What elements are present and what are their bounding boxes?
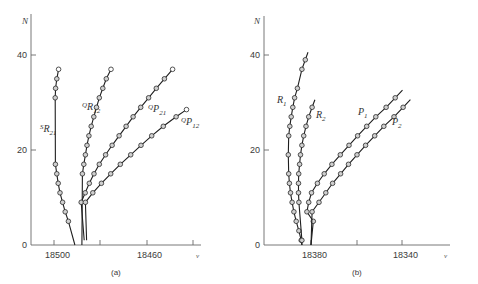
data-point xyxy=(393,96,398,101)
data-point xyxy=(347,143,352,148)
series-label-sr21: SR21 xyxy=(40,123,57,137)
data-point xyxy=(53,96,58,101)
data-point xyxy=(66,219,71,224)
data-point xyxy=(324,191,329,196)
data-point xyxy=(87,181,92,186)
data-point xyxy=(97,162,102,167)
series-label-r2: R2 xyxy=(315,109,326,123)
data-point xyxy=(338,153,343,158)
spectral-branch-figure: N 40 20 0 18500 18460 ν (a) SR21QR12QP21… xyxy=(0,0,478,284)
data-point xyxy=(384,105,389,110)
branch-curve xyxy=(55,69,75,245)
data-point xyxy=(154,86,159,91)
data-point xyxy=(296,191,301,196)
data-point xyxy=(330,181,335,186)
series-label-qp12: QP12 xyxy=(181,116,200,130)
data-point xyxy=(63,210,68,215)
data-point xyxy=(338,172,343,177)
y-tick-label-0-b: 0 xyxy=(255,240,260,250)
data-point xyxy=(286,172,291,177)
data-point xyxy=(306,200,311,205)
data-point xyxy=(295,86,300,91)
x-tick-label-18460: 18460 xyxy=(137,250,162,260)
series-qp12: QP12 xyxy=(83,107,200,240)
data-point xyxy=(304,124,309,129)
series-r2: R2 xyxy=(296,100,326,245)
x-tick-label-18500: 18500 xyxy=(45,250,70,260)
data-point xyxy=(305,210,310,215)
data-point xyxy=(131,115,136,120)
data-point xyxy=(149,134,154,139)
series-label-qp21: QP21 xyxy=(148,103,166,117)
series-qr12: QR12 xyxy=(80,67,113,245)
data-point xyxy=(60,200,65,205)
data-point xyxy=(309,191,314,196)
data-point xyxy=(300,238,305,243)
data-point xyxy=(103,153,108,158)
data-point xyxy=(124,124,129,129)
open-data-point xyxy=(184,107,189,112)
data-point xyxy=(56,181,61,186)
x-axis-label-b: ν xyxy=(444,252,448,260)
data-point xyxy=(83,200,88,205)
data-point xyxy=(294,219,299,224)
data-point xyxy=(303,58,308,63)
series-sr21: SR21 xyxy=(40,67,75,245)
data-point xyxy=(317,200,322,205)
data-point xyxy=(118,162,123,167)
data-point xyxy=(291,105,296,110)
caption-a: (a) xyxy=(111,268,121,277)
data-point xyxy=(288,124,293,129)
branch-curve xyxy=(81,69,172,240)
y-tick-label-40-b: 40 xyxy=(250,50,260,60)
data-point xyxy=(97,96,102,101)
open-data-point xyxy=(56,67,61,72)
x-axis-label-a: ν xyxy=(196,252,200,260)
data-point xyxy=(315,181,320,186)
data-point xyxy=(298,153,303,158)
branch-curve xyxy=(288,52,308,245)
data-point xyxy=(290,200,295,205)
data-point xyxy=(346,162,351,167)
data-point xyxy=(300,67,305,72)
data-point xyxy=(372,134,377,139)
data-point xyxy=(296,172,301,177)
data-point xyxy=(55,77,60,82)
series-r1: R1 xyxy=(276,52,308,245)
data-point xyxy=(355,153,360,158)
data-point xyxy=(138,105,143,110)
y-axis-label-a: N xyxy=(21,16,29,26)
data-point xyxy=(322,172,327,177)
data-point xyxy=(161,124,166,129)
data-point xyxy=(288,191,293,196)
data-point xyxy=(310,210,315,215)
data-point xyxy=(87,134,92,139)
data-point xyxy=(99,181,104,186)
data-point xyxy=(101,86,106,91)
data-point xyxy=(310,105,315,110)
data-point xyxy=(297,200,302,205)
data-point xyxy=(374,115,379,120)
x-tick-label-18380: 18380 xyxy=(302,250,327,260)
data-point xyxy=(330,162,335,167)
series-qp21: QP21 xyxy=(79,67,175,240)
data-point xyxy=(82,162,87,167)
y-tick-label-20-a: 20 xyxy=(17,145,27,155)
series-group-b: R1R2P1P2 xyxy=(276,52,410,245)
data-point xyxy=(364,124,369,129)
data-point xyxy=(104,77,109,82)
data-point xyxy=(89,124,94,129)
data-point xyxy=(355,134,360,139)
data-point xyxy=(110,143,115,148)
x-tick-label-18340: 18340 xyxy=(393,250,418,260)
open-data-point xyxy=(170,67,175,72)
data-point xyxy=(382,124,387,129)
data-point xyxy=(92,115,97,120)
data-point xyxy=(117,134,122,139)
series-label-p2: P2 xyxy=(391,116,402,130)
data-point xyxy=(91,191,96,196)
data-point xyxy=(363,143,368,148)
data-point xyxy=(297,162,302,167)
data-point xyxy=(289,115,294,120)
open-data-point xyxy=(109,67,114,72)
